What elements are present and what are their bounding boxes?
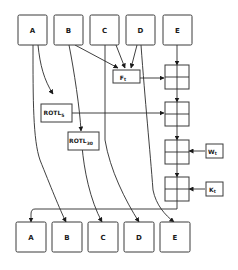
input-register-e: E: [163, 15, 192, 45]
input-register-a-label: A: [30, 27, 36, 35]
output-register-d: D: [124, 222, 154, 252]
adder-4: [165, 177, 189, 201]
output-register-c-label: C: [100, 234, 105, 242]
adder-2: [165, 102, 189, 126]
rotl5-box: ROTL5: [41, 104, 72, 122]
edge-b-to-f: [75, 45, 118, 68]
edge-d-to-f: [131, 45, 137, 68]
output-register-c: C: [88, 222, 118, 252]
sha1-round-diagram: A B C D E Ft ROTL5 ROTL30: [0, 0, 238, 270]
input-register-c: C: [90, 15, 119, 45]
edge-a-to-rotl5: [38, 45, 53, 94]
input-register-b: B: [54, 15, 83, 45]
input-register-d: D: [126, 15, 155, 45]
input-register-e-label: E: [175, 27, 180, 35]
output-register-e-label: E: [173, 234, 178, 242]
input-register-b-label: B: [66, 27, 71, 35]
adder-3: [165, 140, 189, 164]
edge-rotl30-to-c-out: [82, 146, 102, 222]
input-register-d-label: D: [138, 27, 144, 35]
edge-a-to-b-out: [33, 45, 66, 222]
output-register-e: E: [160, 222, 190, 252]
f-function-box: Ft: [113, 70, 140, 83]
input-register-c-label: C: [102, 27, 107, 35]
input-registers: A B C D E: [18, 15, 192, 45]
edge-adder4-to-a-out: [31, 200, 177, 222]
input-register-a: A: [18, 15, 47, 45]
k-box: Kt: [206, 182, 223, 196]
output-registers: A B C D E: [16, 222, 190, 252]
output-register-a: A: [16, 222, 46, 252]
output-register-d-label: D: [136, 234, 142, 242]
w-box: Wt: [206, 144, 223, 158]
rotl30-box: ROTL30: [68, 132, 99, 150]
output-register-a-label: A: [28, 234, 34, 242]
adder-1: [165, 65, 189, 89]
output-register-b: B: [52, 222, 82, 252]
output-register-b-label: B: [64, 234, 69, 242]
edge-c-to-f: [116, 45, 125, 68]
